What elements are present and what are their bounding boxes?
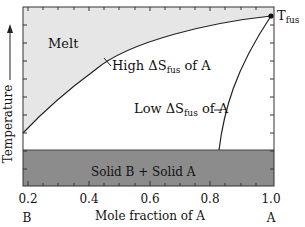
x-tick-label: 0.4 (79, 192, 98, 206)
y-axis-title: Temperature (1, 85, 15, 164)
arrow-up-icon (7, 24, 13, 80)
x-axis-left-end-label: B (23, 211, 32, 225)
low-curve-label: Low ΔSfus of A (134, 101, 229, 118)
solid-region-label: Solid B + Solid A (91, 165, 196, 179)
x-tick-label: 0.2 (18, 192, 37, 206)
right-ticks (270, 25, 274, 169)
high-curve-label: High ΔSfus of A (112, 58, 211, 75)
phase-diagram: Melt Solid B + Solid A High ΔSfus of A L… (0, 0, 305, 227)
x-axis-right-end-label: A (266, 211, 276, 225)
x-tick-label: 0.6 (140, 192, 159, 206)
tfus-point (268, 13, 273, 18)
x-tick-label: 0.8 (200, 192, 219, 206)
x-tick-label: 1.0 (261, 192, 280, 206)
low-entropy-curve (219, 16, 271, 150)
x-axis-title: Mole fraction of A (95, 209, 205, 223)
tfus-label: Tfus (277, 8, 300, 25)
melt-label: Melt (48, 36, 79, 51)
